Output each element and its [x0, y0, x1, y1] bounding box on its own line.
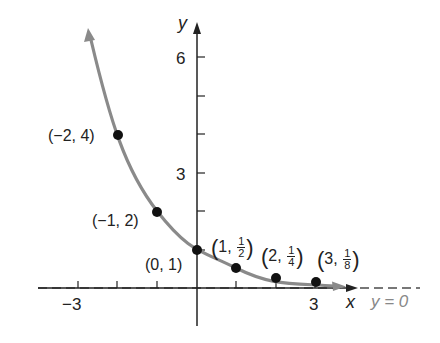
curve-end-arrow-icon	[332, 282, 346, 292]
point-neg2-4	[113, 130, 123, 140]
point-neg1-2	[152, 207, 162, 217]
x-tick-label-3: 3	[309, 296, 318, 313]
y-axis-arrow-icon	[193, 22, 201, 34]
point-label-2-quarter: (2, 14)	[261, 245, 304, 268]
y-tick-label-6: 6	[176, 50, 185, 67]
x-tick-label-neg3: −3	[62, 296, 81, 313]
point-3-eighth	[311, 277, 321, 287]
y-ticks	[197, 57, 205, 250]
point-label-neg2-4: (−2, 4)	[48, 128, 95, 144]
x-axis-arrow-icon	[346, 284, 358, 292]
curve-start-arrow-icon	[84, 28, 95, 42]
x-axis-label: x	[346, 293, 355, 311]
point-label-1-half: (1, 12)	[211, 236, 254, 259]
point-1-half	[231, 263, 241, 273]
y-axis-label: y	[178, 14, 187, 32]
y-tick-label-3: 3	[176, 166, 185, 183]
asymptote-label: y = 0	[371, 293, 408, 310]
point-2-quarter	[271, 273, 281, 283]
point-label-3-eighth: (3, 18)	[317, 248, 360, 271]
point-label-neg1-2: (−1, 2)	[92, 213, 139, 229]
point-0-1	[192, 245, 202, 255]
point-label-0-1: (0, 1)	[145, 257, 182, 273]
